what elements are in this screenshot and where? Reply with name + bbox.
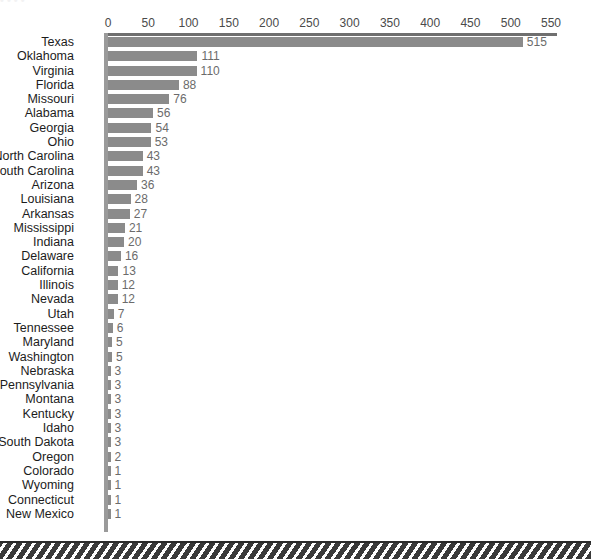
bar [108,452,111,462]
bar-row: Nebraska3 [0,365,591,379]
bar-category-label: Nebraska [21,364,75,378]
bar [108,194,131,204]
bar-value-label: 88 [183,78,196,92]
bar-category-label: South Carolina [0,164,74,178]
bar [108,37,523,47]
bar-category-label: Montana [25,392,74,406]
bar-category-label: Alabama [25,106,74,120]
bar-value-label: 1 [115,507,122,521]
bar-value-label: 21 [129,221,142,235]
bar-value-label: 13 [122,264,135,278]
bar [108,223,125,233]
bar-row: Virginia110 [0,65,591,79]
bar [108,66,197,76]
bar-category-label: Virginia [33,64,74,78]
bar-row: South Dakota3 [0,436,591,450]
x-tick-label: 500 [501,16,521,30]
bar-value-label: 5 [116,335,123,349]
x-tick-label: 350 [380,16,400,30]
bar-row: Arkansas27 [0,208,591,222]
bar-category-label: Colorado [23,464,74,478]
bar [108,509,111,519]
page-edge-hatch-band [0,541,591,559]
bar-row: Washington5 [0,351,591,365]
bar [108,137,151,147]
bar-row: Missouri76 [0,93,591,107]
bar [108,466,111,476]
bar [108,437,111,447]
bar-category-label: Kentucky [23,407,74,421]
bar-value-label: 53 [155,135,168,149]
bar-row: Idaho3 [0,422,591,436]
bar-category-label: Delaware [21,249,74,263]
bar [108,366,111,376]
bar-value-label: 27 [134,207,147,221]
bar-category-label: Tennessee [14,321,74,335]
bar-value-label: 515 [527,35,547,49]
bar-value-label: 3 [115,435,122,449]
bar [108,280,118,290]
bar-row: Montana3 [0,393,591,407]
clipped-header-label: • • • • [0,0,25,6]
bar-row: California13 [0,265,591,279]
x-tick-label: 450 [460,16,480,30]
bar-row: Florida88 [0,79,591,93]
bar [108,209,130,219]
bar [108,495,111,505]
bar [108,151,143,161]
bar-row: Texas515 [0,36,591,50]
bar-value-label: 28 [135,192,148,206]
bar-category-label: North Carolina [0,149,74,163]
bar-row: North Carolina43 [0,150,591,164]
clipped-header-text: • • • • [0,0,591,12]
bar-category-label: Arkansas [22,207,74,221]
x-tick-label: 50 [142,16,155,30]
bar-category-label: Georgia [30,121,74,135]
bar-row: Utah7 [0,308,591,322]
bar-value-label: 56 [157,106,170,120]
bar-value-label: 3 [115,421,122,435]
bar [108,409,111,419]
bar [108,423,111,433]
bar-value-label: 6 [117,321,124,335]
bar [108,94,169,104]
bar-value-label: 76 [173,92,186,106]
bar-category-label: Oregon [32,450,74,464]
x-tick-label: 150 [219,16,239,30]
bar-value-label: 12 [122,278,135,292]
x-tick-label: 200 [259,16,279,30]
bar-category-label: Wyoming [22,478,74,492]
bar-row: Tennessee6 [0,322,591,336]
bar-row: Ohio53 [0,136,591,150]
bar [108,480,111,490]
bar-value-label: 43 [147,149,160,163]
bar-row: Georgia54 [0,122,591,136]
bar [108,51,197,61]
bar-category-label: Pennsylvania [0,378,74,392]
bar-value-label: 20 [128,235,141,249]
bar-row: South Carolina43 [0,165,591,179]
bar-value-label: 7 [118,307,125,321]
bar-category-label: Indiana [33,235,74,249]
bar-value-label: 2 [115,450,122,464]
x-tick-label: 0 [105,16,112,30]
bar [108,166,143,176]
bar-chart-figure: • • • • 05010015020025030035040045050055… [0,0,591,538]
bar-value-label: 3 [115,392,122,406]
bar-row: Colorado1 [0,465,591,479]
bar [108,323,113,333]
bar-row: New Mexico1 [0,508,591,522]
bar-category-label: Idaho [43,421,74,435]
bar-category-label: Washington [8,350,74,364]
bar-row: Nevada12 [0,293,591,307]
bar-row: Oregon2 [0,451,591,465]
bar-value-label: 3 [115,378,122,392]
bar-category-label: Ohio [48,135,74,149]
bar-value-label: 16 [125,249,138,263]
bar-value-label: 110 [201,64,220,78]
bar [108,309,114,319]
bar-rows-container: Texas515Oklahoma111Virginia110Florida88M… [0,36,591,532]
bar [108,266,118,276]
bar-value-label: 1 [115,464,122,478]
bar-category-label: Texas [41,35,74,49]
